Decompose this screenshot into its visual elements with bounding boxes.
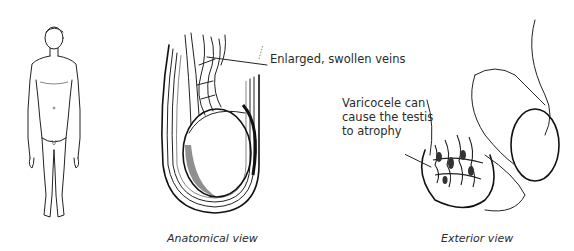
human-figure-icon <box>20 20 90 225</box>
full-body-figure <box>20 20 90 225</box>
atrophy-callout-line2: cause the testis <box>342 110 433 124</box>
scrotum-cross-section-icon <box>155 15 270 215</box>
anatomical-view-drawing <box>155 15 270 215</box>
veins-callout-label: Enlarged, swollen veins <box>270 52 406 66</box>
atrophy-callout-line1: Varicocele can <box>342 96 425 110</box>
anatomical-view-caption: Anatomical view <box>167 232 258 245</box>
exterior-view-caption: Exterior view <box>441 232 513 245</box>
atrophy-callout-line3: to atrophy <box>342 124 402 138</box>
